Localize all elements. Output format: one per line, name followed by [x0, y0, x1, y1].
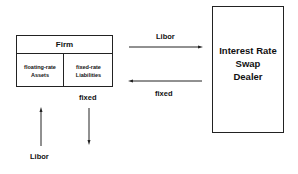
flow-arrows — [0, 0, 298, 174]
libor-in-label: Libor — [30, 152, 49, 161]
fixed-from-dealer-label: fixed — [155, 89, 173, 98]
fixed-out-label: fixed — [79, 93, 97, 102]
libor-to-dealer-label: Libor — [156, 32, 175, 41]
